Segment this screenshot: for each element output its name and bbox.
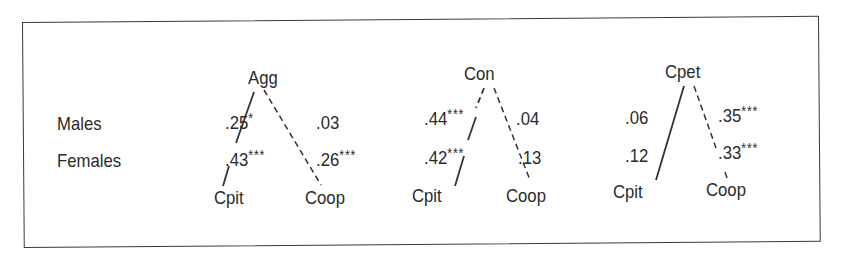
con-node-coop: Coop bbox=[506, 186, 546, 205]
cpet-cpit-path bbox=[656, 86, 684, 180]
agg-females-right-coef: .26*** bbox=[316, 148, 356, 169]
agg-coop-path bbox=[264, 90, 321, 185]
con-cpit-path-mid bbox=[468, 117, 476, 140]
cpet-males-right-coef: .35*** bbox=[718, 104, 758, 125]
node-con: Con bbox=[464, 64, 495, 83]
agg-node-cpit: Cpit bbox=[214, 188, 244, 207]
row-label-males: Males bbox=[57, 114, 102, 133]
agg-males-left-coef: .25* bbox=[225, 111, 254, 132]
con-males-left-coef: .44*** bbox=[424, 107, 464, 128]
con-males-right-coef: .04 bbox=[516, 107, 539, 128]
cpet-node-cpit: Cpit bbox=[613, 182, 643, 201]
path-lines bbox=[0, 0, 843, 260]
con-cpit-path-males bbox=[476, 88, 484, 108]
con-females-right-coef: .13 bbox=[518, 146, 541, 167]
node-cpet: Cpet bbox=[665, 62, 700, 81]
cpet-females-right-coef: .33*** bbox=[718, 141, 758, 162]
con-females-left-coef: .42*** bbox=[424, 146, 464, 167]
agg-females-left-coef: .43*** bbox=[225, 148, 265, 169]
cpet-coop-path bbox=[694, 86, 716, 148]
row-label-females: Females bbox=[57, 151, 121, 170]
agg-males-right-coef: .03 bbox=[316, 111, 339, 132]
cpet-node-coop: Coop bbox=[706, 180, 746, 199]
cpet-coop-path-end bbox=[725, 172, 727, 178]
agg-node-coop: Coop bbox=[305, 188, 345, 207]
con-node-cpit: Cpit bbox=[412, 186, 442, 205]
node-agg: Agg bbox=[248, 68, 278, 87]
cpet-males-left-coef: .06 bbox=[625, 106, 648, 127]
cpet-females-left-coef: .12 bbox=[625, 144, 648, 165]
